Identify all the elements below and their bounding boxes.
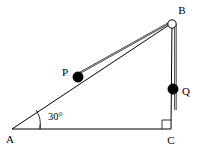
right-angle-marker-at-c [162,120,171,129]
vertex-label-a: A [6,133,14,145]
side-ab-incline [12,23,172,129]
inclined-plane-pulley-figure: A B C P Q 30° [0,0,205,148]
mass-p-dot [73,72,83,82]
string-incline-segment-inner [78,23,170,74]
mass-q-dot [168,84,178,94]
vertex-label-c: C [167,134,174,146]
pulley-icon [168,20,176,28]
mass-label-q: Q [182,85,190,97]
string-incline-segment [78,22,171,74]
angle-label-30-degrees: 30° [48,111,63,122]
side-bc-vertical [171,23,172,129]
figure-canvas: A B C P Q 30° [0,0,205,148]
mass-label-p: P [62,66,68,78]
vertex-label-b: B [178,4,185,16]
